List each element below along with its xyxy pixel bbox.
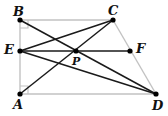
point-label-P: P xyxy=(72,56,80,67)
segment-AC xyxy=(20,20,113,94)
vertex-dot-A xyxy=(17,91,22,96)
point-label-C: C xyxy=(108,4,118,17)
vertex-dot-C xyxy=(110,17,115,22)
point-label-A: A xyxy=(13,98,23,111)
segment-EC xyxy=(20,20,113,51)
vertex-dot-E xyxy=(17,48,22,53)
point-label-E: E xyxy=(4,43,14,56)
vertex-dot-F xyxy=(127,48,132,53)
point-label-D: D xyxy=(152,99,163,112)
point-label-B: B xyxy=(13,5,24,18)
vertex-dot-P xyxy=(73,48,78,53)
geometry-figure: B C E P F A D xyxy=(0,0,168,116)
vertex-dot-D xyxy=(153,91,158,96)
figure-canvas xyxy=(0,0,168,116)
point-label-F: F xyxy=(136,42,145,55)
right-angle-marks xyxy=(20,20,28,94)
interior-segments xyxy=(20,20,156,94)
